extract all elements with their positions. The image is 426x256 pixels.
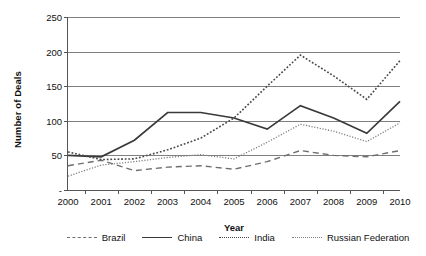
x-tick-label: 2008 <box>323 196 344 207</box>
legend-swatch-icon <box>67 234 97 242</box>
x-tick-label: 2004 <box>190 196 211 207</box>
x-tick-label: 2005 <box>223 196 244 207</box>
legend-item-india[interactable]: India <box>219 232 275 243</box>
plot-area: -50100150200250 200020012002200320042005… <box>68 17 400 190</box>
y-tick-label: 200 <box>46 46 62 57</box>
x-tick-mark <box>383 190 384 194</box>
series-line-india <box>68 55 400 159</box>
x-tick-label: 2007 <box>290 196 311 207</box>
y-tick-label: 100 <box>46 115 62 126</box>
x-tick-label: 2003 <box>157 196 178 207</box>
x-tick-mark <box>217 190 218 194</box>
x-tick-mark <box>251 190 252 194</box>
x-tick-label: 2000 <box>57 196 78 207</box>
legend-swatch-icon <box>219 234 249 242</box>
line-chart-figure: Number of Deals -50100150200250 20002001… <box>0 0 426 256</box>
legend-swatch-icon <box>292 234 322 242</box>
y-tick-label: 250 <box>46 12 62 23</box>
chart-legend: BrazilChinaIndiaRussian Federation <box>58 232 418 243</box>
legend-item-china[interactable]: China <box>142 232 202 243</box>
legend-item-russian-federation[interactable]: Russian Federation <box>292 232 409 243</box>
x-tick-mark <box>284 190 285 194</box>
y-tick-label: - <box>59 185 62 196</box>
series-line-brazil <box>68 151 400 171</box>
x-tick-mark <box>350 190 351 194</box>
y-axis-title: Number of Deals <box>12 55 23 165</box>
legend-item-brazil[interactable]: Brazil <box>67 232 126 243</box>
legend-label: China <box>177 232 202 243</box>
series-line-china <box>68 101 400 156</box>
x-tick-mark <box>317 190 318 194</box>
x-tick-label: 2001 <box>91 196 112 207</box>
x-tick-label: 2002 <box>124 196 145 207</box>
y-tick-label: 50 <box>51 150 62 161</box>
y-tick-label: 150 <box>46 81 62 92</box>
x-tick-label: 2009 <box>356 196 377 207</box>
x-tick-mark <box>118 190 119 194</box>
legend-label: India <box>254 232 275 243</box>
series-line-russian-federation <box>68 123 400 176</box>
x-tick-mark <box>85 190 86 194</box>
legend-label: Russian Federation <box>327 232 409 243</box>
legend-swatch-icon <box>142 234 172 242</box>
x-tick-mark <box>151 190 152 194</box>
x-tick-label: 2006 <box>257 196 278 207</box>
legend-label: Brazil <box>102 232 126 243</box>
series-lines <box>68 17 400 190</box>
x-tick-mark <box>184 190 185 194</box>
x-tick-label: 2010 <box>389 196 410 207</box>
